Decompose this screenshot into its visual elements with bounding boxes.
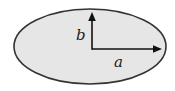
label-b: b bbox=[76, 26, 86, 44]
ellipse-diagram: b a bbox=[0, 0, 175, 91]
label-a: a bbox=[114, 53, 123, 71]
